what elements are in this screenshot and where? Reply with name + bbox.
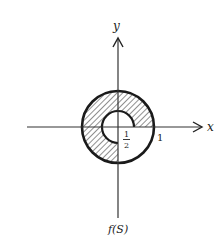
- y-axis-label: y: [112, 19, 120, 33]
- inner-radius-denominator: 2: [124, 141, 129, 150]
- inner-radius-numerator: 1: [124, 130, 129, 139]
- x-axis-label: x: [207, 120, 214, 134]
- diagram-canvas: y x 1 1 2 f(S): [0, 0, 221, 244]
- figure-caption: f(S): [107, 223, 128, 236]
- outer-radius-label: 1: [157, 132, 163, 143]
